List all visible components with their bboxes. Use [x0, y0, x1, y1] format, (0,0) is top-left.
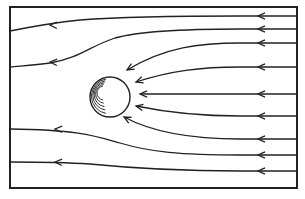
streamline-s7 [124, 117, 297, 139]
flow-diagram [0, 0, 305, 199]
arrow-left-icon [55, 126, 62, 132]
streamlines [10, 13, 297, 174]
diagram-frame [10, 7, 297, 188]
streamline-s3 [127, 43, 297, 70]
streamline-s8 [10, 129, 297, 155]
streamline-s4 [136, 67, 297, 82]
streamline-s9 [10, 162, 297, 171]
streamline-s6 [136, 106, 297, 116]
sphere [90, 77, 130, 117]
